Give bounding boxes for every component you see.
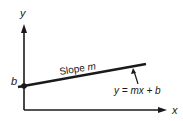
y-axis-arrow-icon — [21, 24, 27, 33]
diagram-canvas: y x b Slope m y = mx + b — [0, 0, 183, 121]
equation-label: y = mx + b — [113, 85, 161, 96]
x-axis-arrow-icon — [158, 107, 167, 113]
pointer-arrow-icon — [131, 68, 136, 74]
y-axis-label: y — [19, 7, 27, 19]
x-axis-label: x — [171, 104, 178, 116]
intercept-label: b — [11, 75, 17, 87]
intercept-point — [21, 83, 27, 89]
slope-intercept-diagram: y x b Slope m y = mx + b — [0, 0, 183, 121]
